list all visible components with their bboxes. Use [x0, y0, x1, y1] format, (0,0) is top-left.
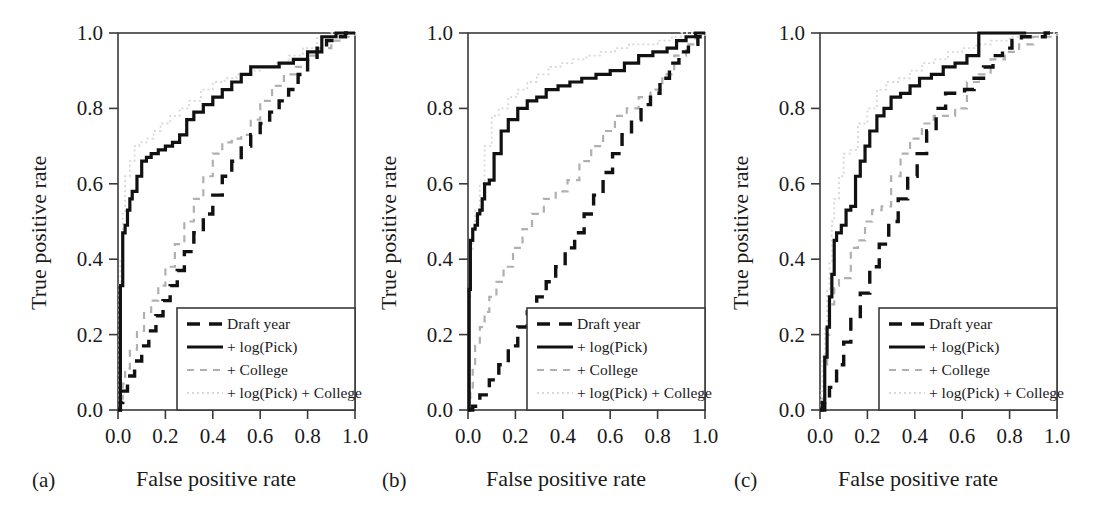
- x-tick-label: 0.8: [987, 426, 1033, 447]
- x-tick-label: 0.0: [797, 426, 843, 447]
- x-tick-label: 0.2: [844, 426, 890, 447]
- legend-label: + log(Pick): [929, 339, 999, 355]
- y-tick-label: 0.6: [51, 174, 103, 195]
- x-tick-label: 0.6: [587, 426, 633, 447]
- y-axis-label: True positive rate: [28, 156, 50, 310]
- y-tick-label: 0.8: [753, 98, 805, 119]
- x-tick-label: 0.4: [892, 426, 938, 447]
- x-tick-label: 0.6: [237, 426, 283, 447]
- x-tick-label: 0.8: [635, 426, 681, 447]
- x-tick-label: 0.6: [939, 426, 985, 447]
- y-tick-label: 1.0: [51, 23, 103, 44]
- x-axis-label: False positive rate: [136, 468, 296, 490]
- legend-label: + College: [929, 362, 990, 378]
- y-axis-label: True positive rate: [378, 156, 400, 310]
- y-tick-label: 0.8: [51, 98, 103, 119]
- panel-tag: (b): [382, 470, 407, 491]
- panel-c: 0.00.20.40.60.81.00.00.20.40.60.81.0True…: [702, 0, 1070, 518]
- roc-figure: 0.00.20.40.60.81.00.00.20.40.60.81.0True…: [0, 0, 1106, 518]
- y-axis-label: True positive rate: [730, 156, 752, 310]
- legend-label: Draft year: [929, 316, 992, 332]
- y-tick-label: 0.6: [401, 174, 453, 195]
- y-tick-label: 0.2: [51, 325, 103, 346]
- panel-tag: (c): [734, 470, 757, 491]
- panel-b: 0.00.20.40.60.81.00.00.20.40.60.81.0True…: [350, 0, 718, 518]
- legend-label: + College: [577, 362, 638, 378]
- legend-label: Draft year: [577, 316, 640, 332]
- x-tick-label: 0.2: [492, 426, 538, 447]
- y-tick-label: 0.0: [753, 400, 805, 421]
- y-tick-label: 0.6: [753, 174, 805, 195]
- y-tick-label: 1.0: [753, 23, 805, 44]
- x-tick-label: 0.0: [95, 426, 141, 447]
- y-tick-label: 0.0: [401, 400, 453, 421]
- x-tick-label: 1.0: [1034, 426, 1080, 447]
- legend-label: Draft year: [227, 316, 290, 332]
- y-tick-label: 0.0: [51, 400, 103, 421]
- legend-label: + log(Pick): [227, 339, 297, 355]
- x-axis-label: False positive rate: [838, 468, 998, 490]
- x-axis-label: False positive rate: [486, 468, 646, 490]
- y-tick-label: 0.2: [753, 325, 805, 346]
- x-tick-label: 0.4: [540, 426, 586, 447]
- y-tick-label: 0.8: [401, 98, 453, 119]
- y-tick-label: 1.0: [401, 23, 453, 44]
- panel-tag: (a): [32, 470, 55, 491]
- y-tick-label: 0.4: [753, 249, 805, 270]
- legend-label: + log(Pick) + College: [227, 385, 362, 401]
- panel-a: 0.00.20.40.60.81.00.00.20.40.60.81.0True…: [0, 0, 368, 518]
- legend-label: + log(Pick): [577, 339, 647, 355]
- legend-label: + log(Pick) + College: [929, 385, 1064, 401]
- y-tick-label: 0.2: [401, 325, 453, 346]
- legend-label: + log(Pick) + College: [577, 385, 712, 401]
- legend-label: + College: [227, 362, 288, 378]
- y-tick-label: 0.4: [401, 249, 453, 270]
- x-tick-label: 0.8: [285, 426, 331, 447]
- x-tick-label: 0.0: [445, 426, 491, 447]
- x-tick-label: 0.4: [190, 426, 236, 447]
- y-tick-label: 0.4: [51, 249, 103, 270]
- x-tick-label: 0.2: [142, 426, 188, 447]
